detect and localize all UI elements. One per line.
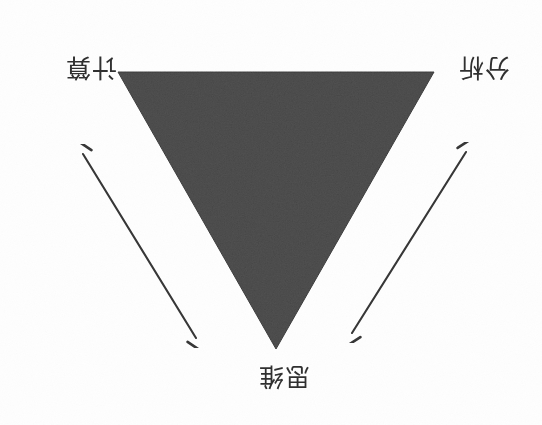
diagram-canvas: 思维 计算 分析: [0, 0, 542, 425]
vertex-label-thinking: 思维: [258, 364, 310, 389]
vertex-label-computation: 计算: [65, 55, 117, 80]
arrow-between-computation-and-thinking: [83, 154, 196, 338]
rotated-figure-group: 思维 计算 分析: [0, 0, 542, 425]
triangle-shape: [118, 72, 434, 349]
vertex-label-analysis: 分析: [458, 55, 510, 80]
